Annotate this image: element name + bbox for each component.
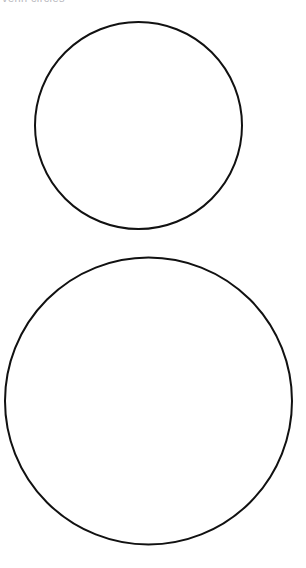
- drawing-canvas: venn circles: [0, 0, 306, 568]
- page-title: venn circles: [2, 0, 65, 4]
- caption-clip-region: venn circles: [0, 0, 306, 4]
- lower-circle-shape: [5, 258, 292, 545]
- upper-circle-shape: [35, 22, 242, 229]
- two-circles-diagram: [0, 0, 306, 568]
